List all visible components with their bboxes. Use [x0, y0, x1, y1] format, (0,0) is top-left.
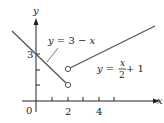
annotation-leader-line — [47, 48, 58, 62]
piecewise-function-graph: y x 0 2 4 3 y = 3 − x y = x 2 + 1 — [0, 0, 164, 123]
x-ticks — [52, 97, 114, 101]
annotation-y-equals-3-minus-x: y = 3 − x — [47, 35, 96, 46]
fraction-numerator: x — [120, 58, 125, 68]
annotation-y-equals-x-half-plus-1: y = x 2 + 1 — [96, 58, 144, 80]
svg-text:y =: y = — [96, 63, 114, 74]
series-line-y-equals-x-half-plus-1 — [70, 26, 155, 68]
y-axis-arrow-icon — [34, 18, 39, 25]
x-tick-label-2: 2 — [65, 106, 71, 117]
x-tick-label-4: 4 — [96, 106, 102, 117]
x-axis-label: x — [157, 95, 163, 106]
open-circle-endpoint-2-1 — [65, 82, 70, 87]
open-circle-endpoint-2-2 — [65, 66, 70, 71]
y-ticks — [36, 54, 40, 85]
origin-label: 0 — [26, 105, 32, 116]
y-axis-label: y — [32, 5, 39, 16]
fraction-denominator: 2 — [119, 70, 125, 80]
fraction-plus-one: + 1 — [126, 63, 144, 74]
